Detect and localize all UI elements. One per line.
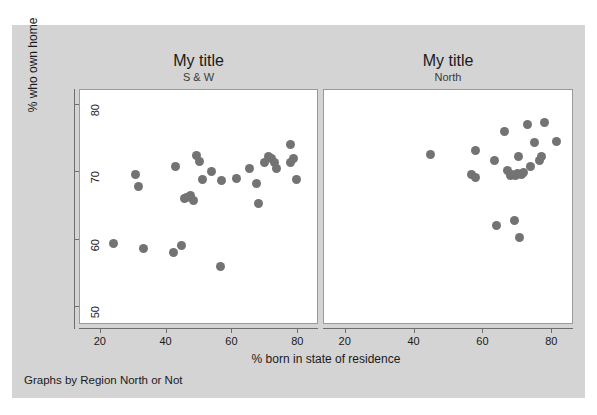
stata-graph-frame: My title S & W My title North 2040608050… xyxy=(12,25,585,398)
scatter-point xyxy=(540,118,549,127)
scatter-point xyxy=(526,162,535,171)
x-tick-label: 60 xyxy=(216,335,246,347)
x-tick xyxy=(345,328,346,333)
panel-title-left: My title xyxy=(79,52,318,70)
scatter-point xyxy=(131,170,140,179)
scatter-point xyxy=(426,150,435,159)
x-tick xyxy=(551,328,552,333)
scatter-point xyxy=(207,167,216,176)
scatter-point xyxy=(272,164,281,173)
scatter-point xyxy=(217,176,226,185)
scatter-point xyxy=(139,244,148,253)
x-tick xyxy=(297,328,298,333)
y-tick xyxy=(74,171,79,172)
x-tick-label: 20 xyxy=(330,335,360,347)
scatter-point xyxy=(195,157,204,166)
y-tick xyxy=(74,239,79,240)
scatter-point xyxy=(510,216,519,225)
scatter-point xyxy=(514,152,523,161)
scatter-point xyxy=(492,221,501,230)
scatter-point xyxy=(552,137,561,146)
scatter-point xyxy=(471,173,480,182)
scatter-point xyxy=(134,182,143,191)
scatter-point xyxy=(245,164,254,173)
y-axis-line xyxy=(74,89,75,329)
scatter-point xyxy=(530,138,539,147)
y-tick-label: 50 xyxy=(89,306,101,332)
scatter-point xyxy=(171,162,180,171)
x-tick-label: 60 xyxy=(467,335,497,347)
x-tick xyxy=(231,328,232,333)
cut-off-header-sliver xyxy=(0,0,597,10)
scatter-point xyxy=(471,146,480,155)
scatter-point xyxy=(289,154,298,163)
x-tick-label: 40 xyxy=(399,335,429,347)
x-axis-line xyxy=(79,328,318,329)
y-tick-label: 70 xyxy=(89,171,101,197)
scatter-point xyxy=(252,179,261,188)
panel-title-right: My title xyxy=(323,52,573,70)
x-tick xyxy=(482,328,483,333)
x-axis-line xyxy=(323,328,573,329)
scatter-point xyxy=(537,152,546,161)
scatter-point xyxy=(177,241,186,250)
x-tick xyxy=(166,328,167,333)
y-tick xyxy=(74,306,79,307)
scatter-plot-panel-sw xyxy=(79,89,318,324)
scatter-point xyxy=(109,239,118,248)
panel-subtitle-right: North xyxy=(323,71,573,84)
scatter-point xyxy=(286,140,295,149)
panel-subtitle-left: S & W xyxy=(79,71,318,84)
x-tick-label: 40 xyxy=(151,335,181,347)
scatter-point xyxy=(169,248,178,257)
x-tick-label: 80 xyxy=(282,335,312,347)
scatter-point xyxy=(523,120,532,129)
scatter-point xyxy=(254,199,263,208)
scatter-point xyxy=(232,174,241,183)
scatter-point xyxy=(490,156,499,165)
scatter-point xyxy=(292,175,301,184)
x-tick-label: 20 xyxy=(85,335,115,347)
scatter-point xyxy=(515,233,524,242)
scatter-plot-panel-north xyxy=(323,89,573,324)
scatter-point xyxy=(500,127,509,136)
x-tick xyxy=(414,328,415,333)
x-tick-label: 80 xyxy=(536,335,566,347)
x-axis-label: % born in state of residence xyxy=(79,352,573,366)
graph-note: Graphs by Region North or Not xyxy=(24,373,183,387)
y-tick-label: 60 xyxy=(89,239,101,265)
y-axis-label: % who own home xyxy=(26,0,40,135)
y-tick xyxy=(74,104,79,105)
scatter-point xyxy=(198,175,207,184)
scatter-point xyxy=(189,196,198,205)
y-tick-label: 80 xyxy=(89,104,101,130)
scatter-point xyxy=(216,262,225,271)
